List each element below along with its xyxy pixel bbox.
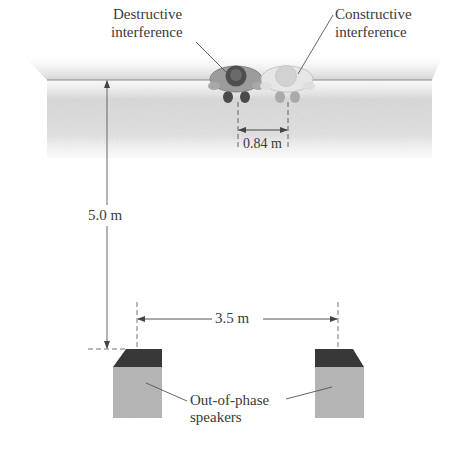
right-speaker <box>315 349 364 418</box>
listener-spacing-label: 0.84 m <box>243 135 282 152</box>
speaker-front-face <box>315 367 364 418</box>
speakers-label-line1: Out-of-phase <box>190 392 269 409</box>
speaker-top-face <box>315 349 364 367</box>
left-speaker <box>113 349 162 418</box>
hand-icon <box>208 82 220 90</box>
hand-icon <box>303 82 315 90</box>
constructive-label-line1: Constructive <box>335 6 412 23</box>
foot-icon <box>275 91 285 103</box>
hand-icon <box>260 82 272 90</box>
foot-icon <box>290 91 300 103</box>
head-icon <box>276 66 297 87</box>
interference-diagram <box>0 0 464 449</box>
speakers-label-line2: speakers <box>190 409 242 426</box>
foot-icon <box>223 91 233 103</box>
distance-label: 5.0 m <box>87 207 123 224</box>
hair-icon <box>230 69 242 81</box>
foot-icon <box>240 91 250 103</box>
constructive-label-line2: interference <box>335 24 407 41</box>
speaker-spacing-label: 3.5 m <box>215 310 249 327</box>
destructive-label-line2: interference <box>111 24 183 41</box>
speaker-front-face <box>113 367 162 418</box>
speaker-top-face <box>113 349 162 367</box>
destructive-label-line1: Destructive <box>113 6 182 23</box>
